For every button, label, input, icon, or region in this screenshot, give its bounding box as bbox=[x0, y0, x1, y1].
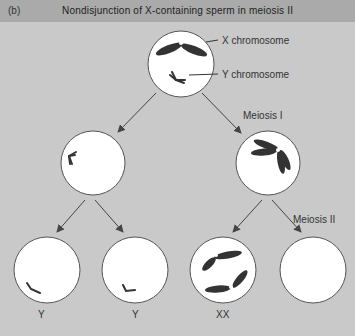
arrow-parent-to-left bbox=[118, 93, 156, 132]
gamete-1-label: Y bbox=[38, 309, 45, 320]
gamete-cell-1 bbox=[14, 237, 80, 303]
x-chromosome-label: X chromosome bbox=[222, 35, 289, 46]
arrow-left-to-gamete1 bbox=[57, 200, 85, 232]
gamete-cell-2 bbox=[102, 237, 168, 303]
meiosis1-left-cell bbox=[61, 131, 125, 195]
arrow-parent-to-right bbox=[202, 93, 241, 133]
arrow-left-to-gamete2 bbox=[95, 200, 123, 232]
gamete-cell-4 bbox=[280, 237, 346, 303]
parent-cell bbox=[148, 31, 218, 97]
gamete-3-label: XX bbox=[216, 309, 229, 320]
meiosis-2-label: Meiosis II bbox=[293, 214, 335, 225]
gamete-2-label: Y bbox=[132, 309, 139, 320]
gamete-cell-3 bbox=[190, 237, 256, 303]
y-chromosome-label: Y chromosome bbox=[222, 69, 289, 80]
meiosis-diagram bbox=[0, 0, 355, 336]
meiosis-1-label: Meiosis I bbox=[243, 110, 282, 121]
arrow-right-to-gamete3 bbox=[233, 200, 262, 232]
meiosis1-right-cell bbox=[236, 131, 300, 195]
x-pointer-line bbox=[206, 40, 218, 42]
